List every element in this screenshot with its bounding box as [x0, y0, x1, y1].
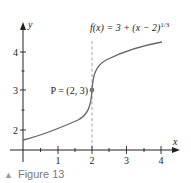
x-tick-label-3: 3: [124, 155, 129, 166]
x-axis-label: x: [172, 136, 178, 147]
function-label: f(x) = 3 + (x − 2)1/3: [90, 21, 170, 34]
y-tick-label-4: 4: [13, 47, 18, 58]
point-p-marker: [90, 88, 95, 93]
triangle-icon: ▲: [4, 170, 13, 180]
x-tick-label-4: 4: [159, 155, 164, 166]
x-tick-label-2: 2: [90, 155, 95, 166]
figure-caption-text: Figure 13: [18, 168, 64, 180]
figure-caption: ▲Figure 13: [4, 168, 64, 180]
function-graph: 1 2 3 4 2 3 4 x y P = (2, 3) f(x) = 3 + …: [0, 0, 191, 183]
y-tick-label-2: 2: [13, 125, 18, 136]
y-axis-arrow-icon: [20, 22, 26, 30]
point-p-label: P = (2, 3): [51, 85, 89, 97]
y-tick-label-3: 3: [13, 85, 18, 96]
y-axis-label: y: [27, 19, 33, 30]
x-axis-arrow-icon: [172, 147, 180, 153]
x-tick-label-1: 1: [56, 155, 61, 166]
